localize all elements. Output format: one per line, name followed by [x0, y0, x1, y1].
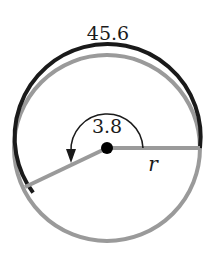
center-point — [101, 142, 113, 154]
arrowhead-icon — [66, 149, 76, 163]
radius-label: r — [148, 152, 159, 176]
circle-diagram: 45.6 3.8 r — [0, 0, 216, 268]
radius-line-angled — [25, 148, 107, 187]
arc-length-label: 45.6 — [87, 22, 129, 44]
angle-label: 3.8 — [92, 115, 122, 137]
